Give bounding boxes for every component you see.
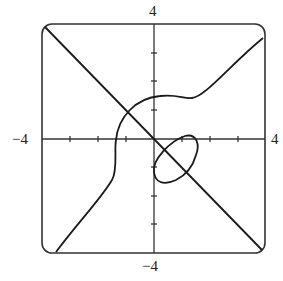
closed-loop bbox=[154, 136, 198, 183]
x-min-label: −4 bbox=[12, 132, 28, 147]
y-max-label: 4 bbox=[149, 4, 157, 19]
y-min-label: −4 bbox=[142, 259, 158, 274]
graph-window bbox=[0, 0, 283, 281]
x-max-label: 4 bbox=[271, 132, 279, 147]
